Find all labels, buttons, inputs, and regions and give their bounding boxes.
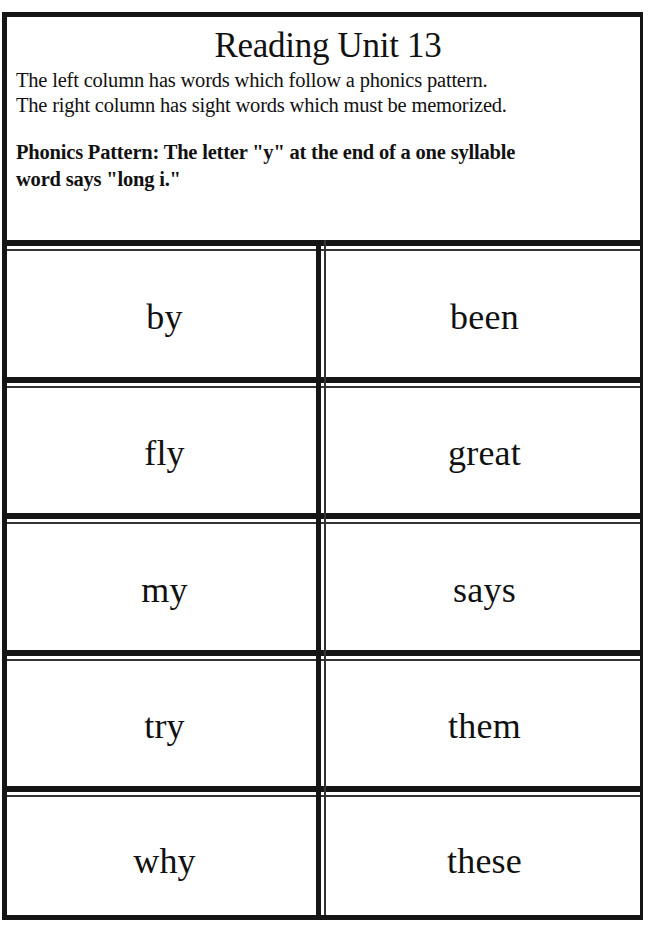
phonics-word-cell: my: [7, 529, 316, 650]
sight-word-cell: these: [329, 802, 640, 920]
page-title: Reading Unit 13: [16, 26, 632, 66]
phonics-pattern-note: Phonics Pattern: The letter "y" at the e…: [16, 139, 632, 193]
column-divider: [316, 240, 321, 915]
sight-word-cell: says: [329, 529, 640, 650]
phonics-word-cell: fly: [7, 393, 316, 513]
instruction-line-left-column: The left column has words which follow a…: [16, 68, 632, 93]
phonics-pattern-line-2: word says "long i.": [16, 166, 632, 193]
word-grid: by been fly great my says try them why t…: [7, 240, 640, 915]
sight-word-cell: been: [329, 256, 640, 377]
sight-word-cell: them: [329, 666, 640, 786]
phonics-pattern-line-1: Phonics Pattern: The letter "y" at the e…: [16, 139, 632, 166]
sight-word-cell: great: [329, 393, 640, 513]
worksheet-header: Reading Unit 13 The left column has word…: [7, 17, 640, 240]
phonics-word-cell: why: [7, 802, 316, 920]
instruction-line-right-column: The right column has sight words which m…: [16, 93, 632, 118]
worksheet: Reading Unit 13 The left column has word…: [2, 12, 643, 920]
phonics-word-cell: by: [7, 256, 316, 377]
phonics-word-cell: try: [7, 666, 316, 786]
instructions: The left column has words which follow a…: [16, 68, 632, 118]
